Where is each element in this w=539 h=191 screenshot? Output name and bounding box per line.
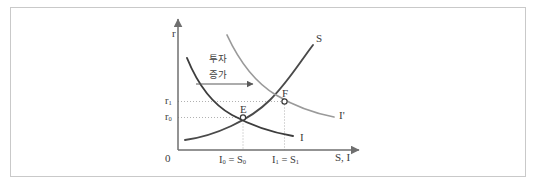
y-tick-r0-sub: 0 <box>169 115 172 122</box>
point-e-label: E <box>240 104 247 115</box>
x-tick-x1: I1 = S1 <box>272 155 299 166</box>
x-axis-label: S, I <box>335 152 350 163</box>
point-f-label: F <box>282 88 288 99</box>
y-tick-r1: r1 <box>165 96 172 107</box>
i-curve-label: I <box>300 132 304 143</box>
annotation-line-1: 투자 <box>209 54 228 64</box>
annotation-line-2: 증가 <box>209 70 228 80</box>
point-e-marker <box>240 115 245 120</box>
figure-page: r S, I 0 S I I' E F r1 r0 I0 = S0 I1 = S… <box>0 0 539 191</box>
x-tick-x0-rhs-sub: 0 <box>243 158 246 165</box>
origin-label: 0 <box>165 153 171 164</box>
diagram-canvas <box>0 0 539 191</box>
x-tick-x0-eq: = <box>226 154 237 165</box>
y-tick-r1-sub: 1 <box>169 99 172 106</box>
y-tick-r0: r0 <box>165 112 172 123</box>
y-axis-label: r <box>172 28 176 39</box>
x-tick-x1-rhs-sub: 1 <box>296 158 299 165</box>
x-tick-x1-eq: = <box>279 154 290 165</box>
s-curve <box>185 45 313 140</box>
s-curve-label: S <box>316 33 322 44</box>
i-prime-curve-label: I' <box>339 110 345 121</box>
x-tick-x0: I0 = S0 <box>219 155 246 166</box>
i-curve <box>187 58 293 136</box>
point-f-marker <box>282 99 287 104</box>
